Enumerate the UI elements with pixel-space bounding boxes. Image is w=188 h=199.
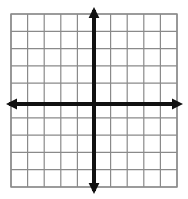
coordinate-plane-svg [0,0,188,199]
coordinate-grid-figure [0,0,188,199]
y-axis-down-arrowhead [89,183,100,194]
y-axis [89,7,100,194]
y-axis-up-arrowhead [89,7,100,18]
